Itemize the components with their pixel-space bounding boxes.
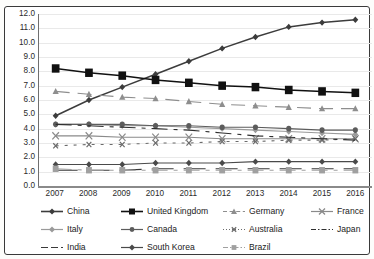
legend-label: India xyxy=(67,242,86,253)
legend-item-south-korea[interactable]: South Korea xyxy=(120,239,195,256)
data-point xyxy=(86,97,92,103)
data-point xyxy=(352,158,358,164)
legend-item-germany[interactable]: Germany xyxy=(222,203,284,220)
series-south-korea xyxy=(53,158,359,167)
y-axis-tick: 3.0 xyxy=(24,139,35,147)
data-point xyxy=(153,167,159,173)
data-point xyxy=(353,127,358,133)
data-point xyxy=(220,124,225,130)
data-point xyxy=(87,142,92,147)
data-point xyxy=(253,158,259,164)
series-china xyxy=(53,17,359,119)
x-axis-tick: 2010 xyxy=(146,189,164,199)
legend-row: ChinaUnited KingdomGermanyFrance xyxy=(10,203,374,220)
legend-item-canada[interactable]: Canada xyxy=(120,221,177,238)
data-point xyxy=(319,19,325,25)
legend-label: Brazil xyxy=(249,242,271,253)
x-axis-tick: 2012 xyxy=(213,189,231,199)
legend-key-japan-icon xyxy=(310,224,334,235)
y-axis-tick: 10.0 xyxy=(19,39,35,47)
series-lines xyxy=(39,14,372,186)
data-point xyxy=(118,71,126,79)
chart-legend: ChinaUnited KingdomGermanyFranceItalyCan… xyxy=(10,203,374,259)
legend-item-brazil[interactable]: Brazil xyxy=(222,239,271,256)
legend-label: United Kingdom xyxy=(147,206,208,217)
x-axis-tick: 2009 xyxy=(112,189,130,199)
legend-label: Canada xyxy=(147,224,177,235)
y-axis-tick: 0.0 xyxy=(24,182,35,190)
data-point xyxy=(352,89,360,97)
legend-key-india-icon xyxy=(40,242,64,253)
plot-canvas xyxy=(38,14,372,186)
data-point xyxy=(53,113,59,119)
series-line xyxy=(56,139,356,146)
data-point xyxy=(85,69,93,77)
legend-label: China xyxy=(67,206,89,217)
legend-marker xyxy=(130,227,135,232)
x-axis-line xyxy=(38,186,372,188)
legend-item-france[interactable]: France xyxy=(310,203,364,220)
plot-area: 12.011.010.09.08.07.06.05.04.03.02.01.00… xyxy=(10,14,374,196)
data-point xyxy=(285,86,293,94)
data-point xyxy=(253,124,258,130)
y-axis-tick: 7.0 xyxy=(24,82,35,90)
legend-marker xyxy=(129,209,135,215)
data-point xyxy=(53,166,59,172)
data-point xyxy=(120,122,125,128)
legend-item-united-kingdom[interactable]: United Kingdom xyxy=(120,203,208,220)
data-point xyxy=(253,167,259,173)
data-point xyxy=(286,24,292,30)
legend-row: IndiaSouth KoreaBrazil xyxy=(10,239,374,256)
y-axis-tick: 11.0 xyxy=(20,24,35,32)
data-point xyxy=(186,140,191,145)
x-axis-tick: 2011 xyxy=(179,189,197,199)
data-point xyxy=(119,84,125,90)
legend-label: Japan xyxy=(337,224,360,235)
legend-item-china[interactable]: China xyxy=(40,203,89,220)
x-axis-tick: 2015 xyxy=(313,189,331,199)
y-axis-tick: 12.0 xyxy=(19,10,35,18)
data-point xyxy=(153,160,159,166)
x-axis-tick: 2008 xyxy=(79,189,97,199)
legend-key-germany-icon xyxy=(222,206,246,217)
data-point xyxy=(218,81,226,89)
series-line xyxy=(56,91,356,108)
legend-item-india[interactable]: India xyxy=(40,239,86,256)
y-axis-tick: 9.0 xyxy=(24,53,35,61)
legend-marker xyxy=(129,245,135,251)
data-point xyxy=(286,167,292,173)
legend-key-france-icon xyxy=(310,206,334,217)
legend-key-china-icon xyxy=(40,206,64,217)
legend-label: France xyxy=(337,206,364,217)
legend-item-japan[interactable]: Japan xyxy=(310,221,360,238)
data-point xyxy=(186,123,191,129)
legend-item-italy[interactable]: Italy xyxy=(40,221,83,238)
series-line xyxy=(56,136,356,139)
x-axis-tick-labels: 2007200820092010201120122013201420152016 xyxy=(38,189,372,203)
series-france xyxy=(52,132,358,142)
series-line xyxy=(56,20,356,116)
legend-key-canada-icon xyxy=(120,224,144,235)
data-point xyxy=(352,17,358,23)
x-axis-tick: 2013 xyxy=(246,189,264,199)
data-point xyxy=(352,167,358,173)
data-point xyxy=(153,123,158,129)
data-point xyxy=(286,126,291,132)
data-point xyxy=(185,79,193,87)
series-line xyxy=(56,162,356,165)
legend-item-australia[interactable]: Australia xyxy=(222,221,282,238)
data-point xyxy=(186,160,192,166)
legend-label: Italy xyxy=(67,224,83,235)
legend-label: Australia xyxy=(249,224,282,235)
x-axis-tick: 2007 xyxy=(46,189,64,199)
data-point xyxy=(219,160,225,166)
y-axis-tick: 5.0 xyxy=(24,110,35,118)
data-point xyxy=(86,167,92,173)
legend-label: South Korea xyxy=(147,242,195,253)
data-point xyxy=(219,167,225,173)
data-point xyxy=(253,34,259,40)
legend-marker xyxy=(232,245,237,250)
data-point xyxy=(319,127,324,133)
data-point xyxy=(219,45,225,51)
data-point xyxy=(318,87,326,95)
